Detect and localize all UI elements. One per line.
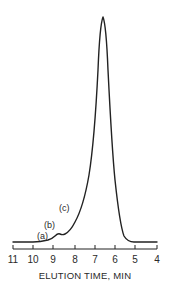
tick-label-5: 5 [132,254,138,265]
annotation-a: (a) [37,231,48,241]
annotation-c: (c) [59,203,70,213]
chromatogram-chart: 11 10 9 8 7 6 5 4 ELUTION TIME, MIN (a) … [0,0,169,288]
tick-label-8: 8 [72,254,78,265]
tick-label-10: 10 [27,254,39,265]
tick-label-9: 9 [50,254,56,265]
tick-label-7: 7 [92,254,98,265]
x-axis-tick-labels: 11 10 9 8 7 6 5 4 [8,254,160,265]
chromatogram-trace [13,17,157,242]
tick-label-4: 4 [154,254,160,265]
tick-label-6: 6 [112,254,118,265]
x-axis-label: ELUTION TIME, MIN [39,270,131,281]
annotation-b: (b) [44,220,55,230]
tick-label-11: 11 [8,254,19,265]
